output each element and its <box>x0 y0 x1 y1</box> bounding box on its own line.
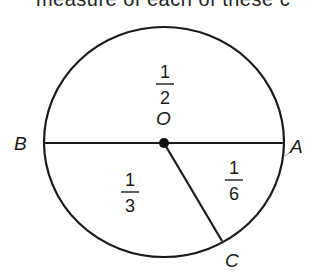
numerator: 1 <box>160 62 170 82</box>
label-a: A <box>289 136 303 157</box>
denominator: 2 <box>160 88 170 108</box>
numerator: 1 <box>229 158 239 178</box>
denominator: 3 <box>125 196 135 216</box>
label-o: O <box>156 108 171 129</box>
radius-oc <box>164 143 222 241</box>
label-b: B <box>14 133 27 154</box>
fraction-lower-right: 1 6 <box>225 158 243 204</box>
fraction-lower-left: 1 3 <box>121 170 139 216</box>
center-point <box>159 138 169 148</box>
numerator: 1 <box>125 170 135 190</box>
fraction-upper-half: 1 2 <box>156 62 174 108</box>
label-c: C <box>225 250 239 271</box>
denominator: 6 <box>229 184 239 204</box>
circle-diagram: O B A C 1 2 1 3 1 6 <box>0 0 326 278</box>
